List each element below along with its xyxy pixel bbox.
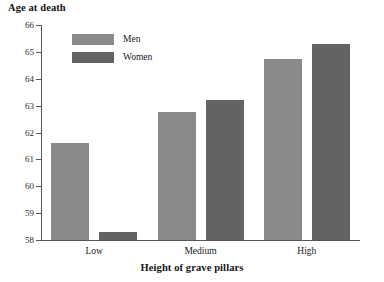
bar-medium-women	[206, 100, 244, 240]
y-axis-tick-label: 61	[12, 154, 34, 164]
y-axis-tick-label: 59	[12, 208, 34, 218]
legend: Men Women	[72, 30, 152, 66]
category-label-high: High	[297, 246, 316, 256]
y-axis-tick-label: 65	[12, 47, 34, 57]
bar-low-men	[51, 143, 89, 240]
x-axis-title: Height of grave pillars	[0, 262, 384, 273]
y-axis-tick-label: 60	[12, 181, 34, 191]
bar-high-women	[312, 44, 350, 240]
legend-swatch-women-icon	[72, 52, 114, 63]
y-axis-tick-labels: 585960616263646566	[8, 0, 34, 282]
category-label-medium: Medium	[184, 246, 216, 256]
bar-medium-men	[158, 112, 196, 240]
bar-low-women	[99, 232, 137, 240]
legend-label-women: Women	[123, 52, 152, 62]
y-axis-tick-label: 62	[12, 128, 34, 138]
legend-item-men: Men	[72, 30, 152, 48]
legend-swatch-men-icon	[72, 34, 114, 45]
x-axis-line	[41, 240, 360, 241]
legend-label-men: Men	[123, 34, 140, 44]
legend-item-women: Women	[72, 48, 152, 66]
y-axis-tick-label: 63	[12, 101, 34, 111]
y-axis-tick-label: 66	[12, 20, 34, 30]
y-axis-tick-label: 64	[12, 74, 34, 84]
bar-chart: Age at death 585960616263646566 LowMediu…	[0, 0, 384, 282]
category-label-low: Low	[85, 246, 102, 256]
bar-high-men	[264, 59, 302, 240]
y-axis-tick-label: 58	[12, 235, 34, 245]
